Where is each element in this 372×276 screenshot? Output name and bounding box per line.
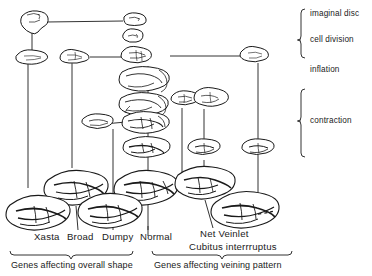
genotype-label-normal: Normal <box>140 232 172 242</box>
inflation-wing-shapes <box>119 67 169 92</box>
figure-canvas: imaginal disc cell division inflation co… <box>0 0 372 276</box>
stage-label-inflation: inflation <box>310 66 340 74</box>
adult-wing-row-upper <box>44 166 235 205</box>
genotype-label-broad: Broad <box>67 232 94 242</box>
group-label-veining-pattern: Genes affecting veining pattern <box>154 261 282 270</box>
group-label-overall-shape: Genes affecting overall shape <box>11 261 133 270</box>
stage-label-imaginal-disc: imaginal disc <box>310 10 359 18</box>
genotype-label-cubitus-interruptus: Cubitus interrruptus <box>189 242 277 252</box>
genotype-label-xasta: Xasta <box>34 232 60 242</box>
preadult-wing-shapes <box>123 137 274 158</box>
genotype-label-dumpy: Dumpy <box>102 232 133 242</box>
stage-label-cell-division: cell division <box>310 36 354 44</box>
genotype-label-net-veinlet: Net Veinlet <box>200 229 249 239</box>
stage-label-contraction: contraction <box>310 117 352 125</box>
cell-division-shapes <box>123 29 143 42</box>
contraction-wing-shapes <box>82 88 229 134</box>
stage-brackets <box>297 9 305 157</box>
group-brackets <box>10 251 292 259</box>
pupal-wing-shapes-row <box>16 46 269 64</box>
